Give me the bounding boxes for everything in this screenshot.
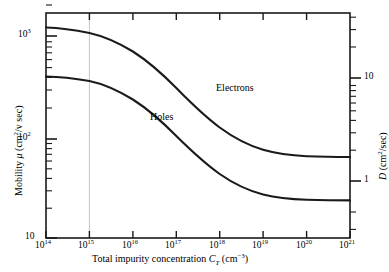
y2-axis-title: D (cm2/sec) [378, 132, 388, 180]
x-tick-label-1e20: 1020 [296, 241, 312, 251]
x-tick-label-1e17: 1017 [165, 241, 181, 251]
curve-electrons [46, 28, 350, 158]
curve-label-electrons: Electrons [216, 83, 254, 93]
chart-plot-area [0, 0, 389, 272]
x-tick-label-1e18: 1018 [209, 241, 225, 251]
mobility-vs-impurity-chart: 103 102 10 10 1 1014 1015 1016 1017 1018… [0, 0, 389, 272]
y-axis-ticks-right [350, 17, 361, 229]
y-axis-ticks-left [46, 5, 57, 238]
x-axis-title: Total impurity concentration CT (cm−3) [92, 254, 248, 264]
y-tick-label-1000: 103 [18, 30, 31, 40]
x-tick-label-1e15: 1015 [78, 241, 94, 251]
y2-tick-label-1: 1 [364, 175, 369, 185]
curve-label-holes: Holes [150, 112, 173, 122]
y-axis-title: Mobility μ (cm2/v sec) [14, 106, 24, 196]
x-axis-ticks-top [89, 13, 306, 20]
x-tick-label-1e16: 1016 [122, 241, 138, 251]
curve-holes [46, 77, 350, 201]
x-tick-label-1e19: 1019 [252, 241, 268, 251]
x-tick-label-1e14: 1014 [35, 241, 51, 251]
x-tick-label-1e21: 1021 [339, 241, 355, 251]
y-tick-label-10: 10 [25, 232, 35, 242]
y2-tick-label-10: 10 [364, 72, 374, 82]
plot-frame [46, 13, 350, 238]
